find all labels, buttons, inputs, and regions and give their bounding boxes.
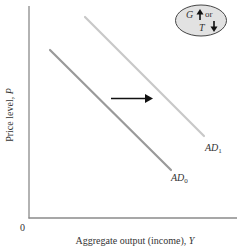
ad0-label: AD0 bbox=[171, 173, 188, 185]
x-axis-label-text: Aggregate output (income), bbox=[76, 235, 189, 246]
ad0-subscript: 0 bbox=[184, 177, 188, 185]
ad1-label: AD1 bbox=[205, 143, 222, 155]
x-axis-label: Aggregate output (income), Y bbox=[0, 236, 243, 246]
y-axis-label: Price level, P bbox=[5, 75, 15, 155]
x-axis-variable: Y bbox=[189, 235, 195, 246]
y-axis-variable: P bbox=[4, 88, 15, 94]
ad0-curve bbox=[50, 50, 171, 170]
taxes-label: T bbox=[199, 23, 205, 33]
ad1-subscript: 1 bbox=[218, 147, 222, 155]
or-label: or bbox=[205, 10, 213, 19]
government-spending-label: G bbox=[186, 10, 193, 20]
shift-arrow-head bbox=[145, 94, 153, 103]
y-axis-label-text: Price level, bbox=[4, 94, 15, 141]
ad1-curve bbox=[85, 17, 204, 136]
ad0-name: AD bbox=[171, 172, 184, 183]
origin-label: 0 bbox=[20, 223, 25, 233]
ad1-name: AD bbox=[205, 142, 218, 153]
ad-shift-diagram bbox=[0, 0, 243, 247]
